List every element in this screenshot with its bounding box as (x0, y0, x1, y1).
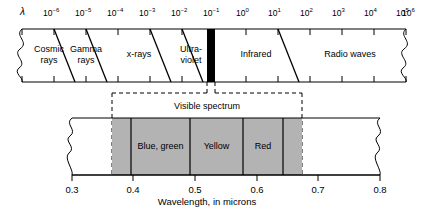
exponent: −5 (84, 7, 91, 13)
exponent: 4 (373, 7, 376, 13)
exponent: 3 (341, 7, 344, 13)
top-tick-label-0: 10−6 (43, 7, 59, 18)
band-label-infrared: Infrared (228, 49, 284, 60)
exponent: 2 (309, 7, 312, 13)
top-tick-label-2: 10−4 (107, 7, 123, 18)
bottom-tick-label-4: 0.7 (308, 184, 328, 195)
band-line: Ultra- (172, 44, 210, 55)
band-line: violet (172, 55, 210, 66)
top-tick-label-4: 10−2 (171, 7, 187, 18)
exponent: −2 (180, 7, 187, 13)
visible-cell-label-yellow: Yellow (190, 141, 243, 151)
top-tick-label-5: 10−1 (203, 7, 219, 18)
top-tick-label-last: 106 (402, 7, 415, 18)
band-line: x-rays (112, 49, 166, 60)
bottom-tick-label-0: 0.3 (62, 184, 82, 195)
bottom-tick-label-1: 0.4 (123, 184, 143, 195)
top-tick-label-1: 10−5 (75, 7, 91, 18)
bottom-axis-title: Wavelength, in microns (112, 196, 302, 207)
bottom-tick-label-5: 0.8 (370, 184, 390, 195)
exponent: 0 (245, 7, 248, 13)
band-label-gamma-rays: Gamma rays (61, 44, 111, 65)
top-tick-label-7: 101 (268, 7, 281, 18)
band-line: Infrared (228, 49, 284, 60)
top-tick-label-10: 104 (364, 7, 377, 18)
band-line: Gamma (61, 44, 111, 55)
top-tick-label-9: 103 (332, 7, 345, 18)
band-label-ultraviolet: Ultra- violet (172, 44, 210, 65)
bottom-left-break-squiggle (67, 118, 72, 175)
bottom-tick-label-2: 0.5 (185, 184, 205, 195)
band-label-radio-waves: Radio waves (310, 49, 390, 60)
exponent: 6 (411, 7, 414, 13)
exponent: −3 (148, 7, 155, 13)
bottom-axis-group (72, 175, 380, 181)
exponent: −6 (52, 7, 59, 13)
top-tick-label-6: 100 (236, 7, 249, 18)
bottom-right-break-squiggle (375, 118, 380, 175)
exponent: 1 (277, 7, 280, 13)
visible-cell-label-red: Red (243, 141, 283, 151)
top-tick-label-8: 102 (300, 7, 313, 18)
top-tick-label-3: 10−3 (139, 7, 155, 18)
lambda-symbol: λ (20, 6, 25, 17)
right-break-squiggle (401, 29, 407, 82)
visible-spectrum-title: Visible spectrum (112, 101, 302, 111)
band-line: Radio waves (310, 49, 390, 60)
visible-cell-label-blue-green: Blue, green (131, 141, 190, 151)
band-label-x-rays: x-rays (112, 49, 166, 60)
left-break-squiggle (17, 29, 23, 82)
band-line: rays (61, 55, 111, 66)
figure-canvas: λ 10−6 10−5 10−4 10−3 10−2 10−1 100 101 … (0, 0, 424, 210)
exponent: −4 (116, 7, 123, 13)
bottom-tick-label-3: 0.6 (247, 184, 267, 195)
exponent: −1 (212, 7, 219, 13)
